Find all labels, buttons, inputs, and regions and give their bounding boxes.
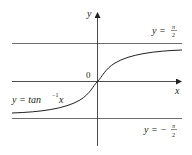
svg-text:x: x	[58, 94, 64, 105]
svg-text:y =: y =	[151, 25, 166, 36]
svg-text:y = tan: y = tan	[11, 94, 41, 105]
origin-label: 0	[86, 70, 91, 80]
svg-text:π: π	[172, 24, 176, 30]
svg-text:π: π	[172, 123, 176, 129]
svg-text:2: 2	[172, 32, 175, 38]
y-axis-label: y	[86, 8, 92, 19]
x-axis-label: x	[174, 85, 180, 96]
bottom-asymptote-label: y = − π 2	[143, 123, 177, 138]
svg-text:y = −: y = −	[143, 124, 167, 135]
svg-text:−1: −1	[52, 92, 58, 98]
top-asymptote-label: y = π 2	[151, 24, 177, 38]
curve-label: y = tan −1 x	[11, 92, 64, 105]
svg-text:2: 2	[172, 132, 175, 138]
arctan-graph: y x 0 y = π 2 y = − π 2 y = tan −1 x	[0, 0, 192, 155]
